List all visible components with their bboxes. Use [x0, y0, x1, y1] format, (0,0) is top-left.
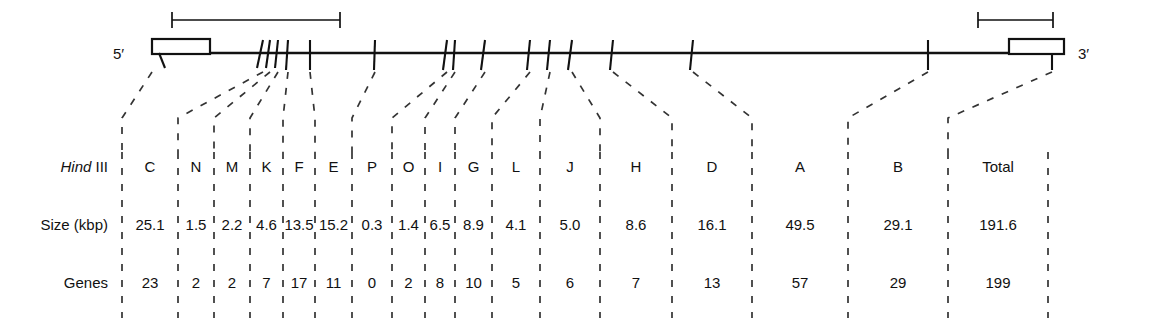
cell-value: 7 [262, 274, 270, 291]
column-dividers-group [122, 152, 1048, 318]
cell-value: 25.1 [135, 216, 164, 233]
leader-line [122, 72, 152, 152]
cell-value: C [145, 158, 156, 175]
hindiii-restriction-map-figure: 5′ 3′ Hind I [0, 0, 1159, 330]
cell-value: H [631, 158, 642, 175]
leader-line [540, 72, 550, 152]
size-row: Size (kbp)25.11.52.24.613.515.20.31.46.5… [40, 216, 1016, 233]
genes-row: Genes23227171102810567135729199 [64, 274, 1011, 291]
cell-value: 2.2 [222, 216, 243, 233]
cell-value: O [403, 158, 415, 175]
cell-value: E [328, 158, 338, 175]
leader-lines-group [122, 72, 1052, 152]
three-prime-terminal-repeat-box [1009, 39, 1064, 54]
cell-value: 49.5 [785, 216, 814, 233]
left-scale-bar [172, 12, 340, 28]
scale-bars-group [172, 12, 1053, 28]
cell-value: 57 [792, 274, 809, 291]
cell-value: M [226, 158, 239, 175]
cell-value: 2 [404, 274, 412, 291]
cell-value: 6 [566, 274, 574, 291]
three-prime-label: 3′ [1078, 45, 1089, 62]
cell-value: 8.6 [626, 216, 647, 233]
cell-value: 15.2 [319, 216, 348, 233]
cell-value: 1.4 [398, 216, 419, 233]
cell-value: 13.5 [284, 216, 313, 233]
cell-value: 2 [228, 274, 236, 291]
leader-line [310, 72, 315, 152]
cell-value: 11 [326, 274, 342, 291]
cell-value: 5 [512, 274, 520, 291]
leader-line [693, 72, 752, 152]
leader-line [283, 72, 288, 152]
cell-value: 16.1 [697, 216, 726, 233]
cell-value: 13 [704, 274, 721, 291]
cell-value: 4.1 [506, 216, 527, 233]
size-row-label: Size (kbp) [40, 216, 108, 233]
right-scale-bar [978, 12, 1053, 28]
cell-value: 0 [368, 274, 376, 291]
restriction-site-ticks [159, 40, 1052, 70]
cell-value: 23 [142, 274, 159, 291]
cell-value: 5.0 [560, 216, 581, 233]
cell-value: P [367, 158, 377, 175]
hind-iii-row-label: Hind III [60, 158, 108, 175]
cell-value: 29 [890, 274, 907, 291]
leader-line [572, 72, 600, 152]
cell-value: 2 [192, 274, 200, 291]
cell-value: 8.9 [463, 216, 484, 233]
cell-value: Total [982, 158, 1014, 175]
leader-line [948, 72, 1052, 152]
five-prime-label: 5′ [113, 45, 124, 62]
cell-value: 1.5 [186, 216, 207, 233]
leader-line [613, 72, 672, 152]
cell-value: 0.3 [362, 216, 383, 233]
cell-value: 4.6 [256, 216, 277, 233]
leader-line [848, 72, 928, 152]
leader-line [392, 72, 447, 152]
leader-line [178, 72, 263, 152]
cell-value: F [294, 158, 303, 175]
cell-value: N [191, 158, 202, 175]
leader-line [425, 72, 455, 152]
cell-value: J [566, 158, 574, 175]
cell-value: A [795, 158, 805, 175]
cell-value: 10 [465, 274, 482, 291]
genome-line-group [152, 39, 1064, 70]
cell-value: 6.5 [430, 216, 451, 233]
cell-value: 17 [291, 274, 308, 291]
cell-value: K [261, 158, 271, 175]
cell-value: D [707, 158, 718, 175]
leader-line [492, 72, 530, 152]
cell-value: L [512, 158, 520, 175]
cell-value: B [893, 158, 903, 175]
leader-line [352, 72, 375, 152]
cell-value: G [468, 158, 480, 175]
cell-value: 8 [436, 274, 444, 291]
cell-value: 29.1 [883, 216, 912, 233]
leader-line [214, 72, 270, 152]
leader-line [455, 72, 485, 152]
cell-value: 199 [985, 274, 1010, 291]
hind-iii-row: Hind IIICNMKFEPOIGLJHDABTotal [60, 158, 1013, 175]
five-prime-terminal-repeat-box [152, 39, 210, 54]
cell-value: 191.6 [979, 216, 1017, 233]
cell-value: I [438, 158, 442, 175]
cell-value: 7 [632, 274, 640, 291]
genes-row-label: Genes [64, 274, 108, 291]
data-rows-group: Hind IIICNMKFEPOIGLJHDABTotalSize (kbp)2… [40, 158, 1016, 291]
